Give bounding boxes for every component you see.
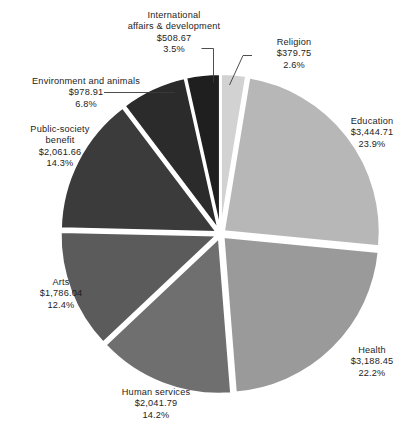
label-religion-percent: 2.6% <box>248 60 340 71</box>
label-environment-and-animals-value: $978.91 <box>16 87 156 98</box>
label-international-affairs-name-line2: affairs & development <box>104 21 244 32</box>
label-environment-and-animals: Environment and animals $978.91 6.8% <box>16 76 156 110</box>
label-education: Education $3,444.71 23.9% <box>330 116 414 150</box>
label-human-services: Human services $2,041.79 14.2% <box>86 387 226 421</box>
label-environment-and-animals-percent: 6.8% <box>16 99 156 110</box>
label-human-services-percent: 14.2% <box>86 410 226 421</box>
label-international-affairs-percent: 3.5% <box>104 44 244 55</box>
label-arts-value: $1,786.04 <box>18 288 104 299</box>
label-public-society-benefit-percent: 14.3% <box>8 158 112 169</box>
label-public-society-benefit-name-line1: Public-society <box>8 124 112 135</box>
label-international-affairs: International affairs & development $508… <box>104 10 244 56</box>
label-arts-name: Arts <box>18 277 104 288</box>
label-education-value: $3,444.71 <box>330 127 414 138</box>
label-education-name: Education <box>330 116 414 127</box>
label-public-society-benefit-value: $2,061.66 <box>8 147 112 158</box>
label-human-services-value: $2,041.79 <box>86 398 226 409</box>
label-religion-name: Religion <box>248 37 340 48</box>
label-environment-and-animals-name: Environment and animals <box>16 76 156 87</box>
label-education-percent: 23.9% <box>330 139 414 150</box>
label-international-affairs-name-line1: International <box>104 10 244 21</box>
label-arts: Arts $1,786.04 12.4% <box>18 277 104 311</box>
label-public-society-benefit-name-line2: benefit <box>8 135 112 146</box>
label-health-percent: 22.2% <box>330 368 414 379</box>
label-health-name: Health <box>330 345 414 356</box>
label-arts-percent: 12.4% <box>18 300 104 311</box>
label-religion-value: $379.75 <box>248 48 340 59</box>
label-international-affairs-value: $508.67 <box>104 33 244 44</box>
label-health: Health $3,188.45 22.2% <box>330 345 414 379</box>
label-human-services-name: Human services <box>86 387 226 398</box>
label-health-value: $3,188.45 <box>330 356 414 367</box>
pie-chart: International affairs & development $508… <box>0 0 418 444</box>
label-religion: Religion $379.75 2.6% <box>248 37 340 71</box>
slice-education[interactable] <box>224 78 380 247</box>
label-public-society-benefit: Public-society benefit $2,061.66 14.3% <box>8 124 112 170</box>
